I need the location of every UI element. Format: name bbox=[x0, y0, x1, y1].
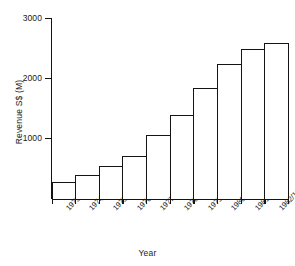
bar-1980-1981 bbox=[217, 64, 242, 200]
bar-1979-1980 bbox=[193, 88, 218, 199]
bar-1978-1979 bbox=[170, 115, 195, 199]
bar-1976-1977 bbox=[122, 156, 147, 200]
bar-1977-1978 bbox=[146, 135, 171, 200]
bar-1975-1976 bbox=[99, 166, 124, 200]
bar-1982-1983 bbox=[264, 43, 289, 200]
bars-container: 1973/19741974/19751975/19761976/19771977… bbox=[0, 0, 295, 266]
bar-1981-1982 bbox=[241, 49, 266, 200]
bar-chart: Revenue S$ (M) 3000 2000 1000 1973/19741… bbox=[0, 0, 295, 266]
x-axis-title: Year bbox=[0, 248, 295, 258]
x-tick-mark-origin bbox=[52, 199, 53, 204]
